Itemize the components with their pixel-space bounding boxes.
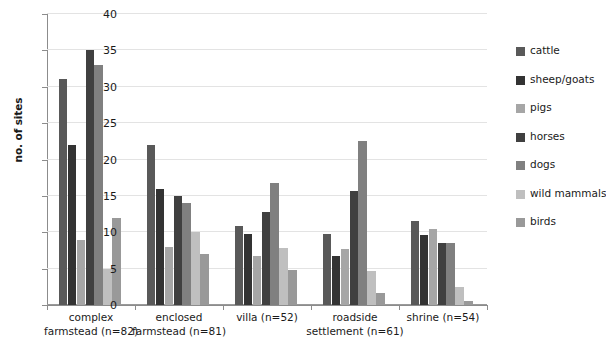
y-axis-tick-mark xyxy=(42,232,47,233)
x-axis-group-separator xyxy=(47,305,48,310)
bar-pigs-group-3 xyxy=(253,256,261,305)
y-axis-tick-label: 30 xyxy=(77,87,117,88)
x-axis-group-separator xyxy=(135,305,136,310)
bar-wild-mammals-group-3 xyxy=(279,248,287,305)
legend-item-cattle[interactable]: cattle xyxy=(516,44,606,73)
legend-label: horses xyxy=(530,129,565,144)
y-axis-tick-mark xyxy=(42,14,47,15)
y-axis-tick-mark xyxy=(42,87,47,88)
bar-dogs-group-2 xyxy=(182,203,190,305)
legend-swatch-icon xyxy=(516,76,525,85)
legend-swatch-icon xyxy=(516,47,525,56)
bar-sheep-goats-group-3 xyxy=(244,234,252,305)
bar-birds-group-3 xyxy=(288,270,296,305)
x-axis-labels: complexfarmstead (n=82)enclosedfarmstead… xyxy=(47,311,488,349)
bar-wild-mammals-group-2 xyxy=(191,232,199,305)
legend-label: birds xyxy=(530,214,556,229)
legend-item-birds[interactable]: birds xyxy=(516,215,606,244)
legend-item-wild-mammals[interactable]: wild mammals xyxy=(516,187,606,216)
y-axis-tick-mark xyxy=(42,196,47,197)
legend-label: pigs xyxy=(530,100,552,115)
y-axis-tick-label: 0 xyxy=(77,305,117,306)
bar-cattle-group-4 xyxy=(323,234,331,305)
legend-swatch-icon xyxy=(516,104,525,113)
x-axis-label-line: farmstead (n=81) xyxy=(117,325,241,339)
y-axis-tick-label: 10 xyxy=(77,232,117,233)
legend-label: cattle xyxy=(530,43,560,58)
bar-horses-group-5 xyxy=(438,243,446,305)
bar-wild-mammals-group-4 xyxy=(367,271,375,305)
y-axis-tick-label: 40 xyxy=(77,14,117,15)
bar-dogs-group-3 xyxy=(270,183,278,305)
bar-sheep-goats-group-2 xyxy=(156,189,164,305)
y-axis-tick-mark xyxy=(42,50,47,51)
y-axis-tick-label: 5 xyxy=(77,269,117,270)
x-axis-label-line: settlement (n=61) xyxy=(293,325,417,339)
legend-label: sheep/goats xyxy=(530,72,594,87)
legend-swatch-icon xyxy=(516,218,525,227)
bar-horses-group-4 xyxy=(350,191,358,305)
bar-cattle-group-2 xyxy=(147,145,155,305)
legend-label: dogs xyxy=(530,157,555,172)
bar-dogs-group-4 xyxy=(358,141,366,305)
x-axis-label-5: shrine (n=54) xyxy=(381,311,505,325)
legend-item-pigs[interactable]: pigs xyxy=(516,101,606,130)
y-axis-tick-mark xyxy=(42,269,47,270)
y-axis-title: no. of sites xyxy=(12,80,32,180)
bar-chart: no. of sites 0510152025303540 complexfar… xyxy=(0,0,606,351)
legend-label: wild mammals xyxy=(530,186,606,201)
bar-horses-group-1 xyxy=(86,50,94,305)
bar-pigs-group-4 xyxy=(341,249,349,305)
bar-cattle-group-1 xyxy=(59,79,67,305)
y-axis-tick-label: 20 xyxy=(77,160,117,161)
bar-dogs-group-5 xyxy=(446,243,454,305)
x-axis-group-separator xyxy=(223,305,224,310)
legend: cattlesheep/goatspigshorsesdogswild mamm… xyxy=(516,44,606,244)
bar-birds-group-2 xyxy=(200,254,208,305)
bar-sheep-goats-group-1 xyxy=(68,145,76,305)
x-axis-group-separator xyxy=(399,305,400,310)
bar-sheep-goats-group-5 xyxy=(420,235,428,305)
legend-item-sheep-goats[interactable]: sheep/goats xyxy=(516,73,606,102)
bar-wild-mammals-group-5 xyxy=(455,287,463,305)
legend-item-dogs[interactable]: dogs xyxy=(516,158,606,187)
legend-swatch-icon xyxy=(516,190,525,199)
bar-cattle-group-5 xyxy=(411,221,419,305)
y-axis-tick-label: 25 xyxy=(77,123,117,124)
bar-horses-group-2 xyxy=(174,196,182,305)
bar-pigs-group-2 xyxy=(165,247,173,305)
bar-cattle-group-3 xyxy=(235,226,243,305)
bar-pigs-group-1 xyxy=(77,240,85,305)
bar-sheep-goats-group-4 xyxy=(332,256,340,305)
legend-swatch-icon xyxy=(516,161,525,170)
bar-birds-group-5 xyxy=(464,301,472,305)
x-axis-group-separator xyxy=(311,305,312,310)
y-axis-tick-mark xyxy=(42,123,47,124)
y-axis-tick-label: 35 xyxy=(77,50,117,51)
x-axis-label-line: shrine (n=54) xyxy=(381,311,505,325)
bar-pigs-group-5 xyxy=(429,229,437,305)
bar-horses-group-3 xyxy=(262,212,270,305)
y-axis-tick-mark xyxy=(42,160,47,161)
x-axis-group-separator xyxy=(487,305,488,310)
legend-swatch-icon xyxy=(516,133,525,142)
legend-item-horses[interactable]: horses xyxy=(516,130,606,159)
y-axis-tick-label: 15 xyxy=(77,196,117,197)
bar-birds-group-4 xyxy=(376,293,384,305)
